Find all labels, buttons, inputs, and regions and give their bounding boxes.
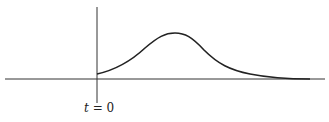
- diagram-canvas: [0, 0, 329, 122]
- pulse-curve: [97, 33, 310, 79]
- t-zero-label: t = 0: [84, 101, 114, 115]
- equals-zero: = 0: [89, 101, 114, 115]
